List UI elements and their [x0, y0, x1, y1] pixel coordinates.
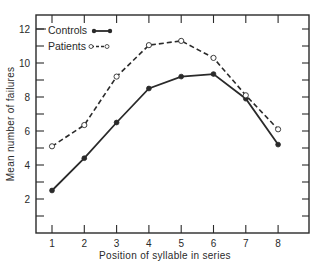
y-tick-label: 10	[19, 58, 31, 69]
legend: Controls Patients	[36, 24, 112, 52]
data-point	[146, 43, 151, 48]
x-axis-label: Position of syllable in series	[99, 250, 231, 261]
x-tick-label: 3	[114, 238, 120, 249]
data-point	[49, 144, 54, 149]
axis-tick-labels: 1234567824681012	[19, 24, 281, 250]
series-layer	[49, 38, 280, 193]
data-point	[147, 86, 152, 91]
series-controls	[50, 72, 281, 193]
line-chart: 1234567824681012 Controls Patients Posit…	[0, 0, 325, 273]
data-point	[114, 120, 119, 125]
x-tick-label: 6	[211, 238, 217, 249]
y-tick-label: 12	[19, 24, 31, 35]
data-point	[276, 142, 281, 147]
x-tick-label: 1	[49, 238, 55, 249]
data-point	[179, 74, 184, 79]
x-tick-label: 4	[146, 238, 152, 249]
data-point	[50, 188, 55, 193]
data-point	[179, 38, 184, 43]
data-point	[114, 74, 119, 79]
legend-label-patients: Patients	[48, 40, 86, 52]
data-point	[82, 122, 87, 127]
x-tick-label: 2	[82, 238, 88, 249]
series-line	[52, 74, 278, 190]
y-tick-label: 4	[24, 160, 30, 171]
data-point	[211, 55, 216, 60]
y-axis-label: Mean number of failures	[5, 67, 16, 182]
data-point	[276, 127, 281, 132]
legend-marker-controls	[92, 29, 96, 33]
x-tick-label: 7	[243, 238, 249, 249]
y-tick-label: 8	[24, 92, 30, 103]
y-tick-label: 6	[24, 126, 30, 137]
x-tick-label: 8	[275, 238, 281, 249]
data-point	[243, 93, 248, 98]
legend-label-controls: Controls	[48, 24, 87, 36]
x-tick-label: 5	[178, 238, 184, 249]
data-point	[82, 156, 87, 161]
y-tick-label: 2	[24, 194, 30, 205]
series-patients	[49, 38, 280, 149]
legend-marker-patients	[89, 45, 93, 49]
data-point	[211, 72, 216, 77]
